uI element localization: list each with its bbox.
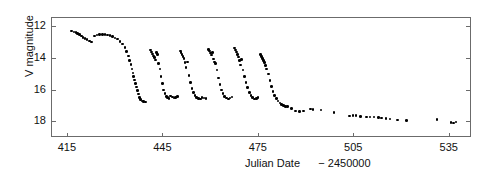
x-tick [353,133,354,137]
y-tick-label: 18 [22,114,46,126]
data-point [160,75,163,78]
data-point [183,57,186,60]
data-point [157,62,160,65]
data-point [159,68,162,71]
data-point [312,108,315,111]
y-tick [52,58,56,59]
data-point [385,117,388,120]
data-point [436,118,439,121]
data-point [131,68,134,71]
data-point [135,86,138,89]
data-point [365,116,368,119]
data-point [270,85,273,88]
data-point [137,93,140,96]
data-point [231,96,234,99]
data-point [348,115,351,118]
y-tick-right [466,58,470,59]
data-points-layer [52,18,470,136]
data-point [359,115,362,118]
light-curve-figure: 415445475505535 12141618 V magnitude Jul… [0,0,490,193]
data-point [189,81,192,84]
x-tick [449,133,450,137]
x-axis-label-main: Julian Date [245,157,300,169]
data-point [205,97,208,100]
data-point [185,66,188,69]
y-tick-right [466,90,470,91]
data-point [239,64,242,67]
data-point [269,79,272,82]
data-point [132,72,135,75]
data-point [130,63,133,66]
y-tick [52,121,56,122]
data-point [389,118,392,121]
data-point [245,81,248,84]
x-tick-label: 535 [426,141,472,153]
x-tick-label: 505 [330,141,376,153]
data-point [90,41,93,44]
x-tick [67,133,68,137]
data-point [216,69,219,72]
data-point [191,87,194,90]
data-point [133,79,136,82]
x-tick-label: 475 [235,141,281,153]
data-point [369,116,372,119]
data-point [156,53,159,56]
data-point [405,119,408,122]
data-point [176,95,179,98]
data-point [246,86,249,89]
data-point [128,59,131,62]
data-point [264,64,267,67]
data-point [154,59,157,62]
x-axis-label: Julian Date − 2450000 [245,157,371,169]
data-point [242,69,245,72]
data-point [302,110,305,113]
y-tick-right [466,26,470,27]
data-point [333,111,336,114]
data-point [272,90,275,93]
y-tick [52,26,56,27]
data-point [168,97,171,100]
y-axis-label: V magnitude [23,0,35,106]
y-tick [52,90,56,91]
data-point [396,119,399,122]
data-point [211,51,214,54]
data-point [127,55,130,58]
data-point [380,117,383,120]
x-tick [162,133,163,137]
data-point [188,74,191,77]
x-tick [258,133,259,137]
data-point [210,54,213,57]
data-point [286,105,289,108]
data-point [267,73,270,76]
data-point [144,101,147,104]
x-tick-label: 415 [44,141,90,153]
data-point [121,43,124,46]
data-point [320,109,323,112]
data-point [455,121,458,124]
data-point [124,46,127,49]
data-point [240,58,243,61]
data-point [132,75,135,78]
data-point [217,77,220,80]
data-point [257,96,260,99]
data-point [355,114,358,117]
data-point [373,116,376,119]
data-point [265,68,268,71]
data-point [212,58,215,61]
data-point [186,61,189,64]
data-point [161,82,164,85]
data-point [219,83,222,86]
data-point [214,62,217,65]
data-point [290,107,293,110]
data-point [162,89,165,92]
data-point [134,82,137,85]
x-axis-label-offset: − 2450000 [318,157,370,169]
data-point [294,110,297,113]
x-tick-label: 445 [139,141,185,153]
x-axis-label-spacer [303,157,315,169]
data-point [352,114,355,117]
plot-area [51,17,471,137]
y-tick-right [466,121,470,122]
data-point [125,50,128,53]
data-point [136,89,139,92]
